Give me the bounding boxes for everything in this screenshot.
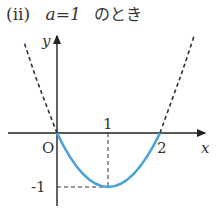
parabola-left-extension — [24, 42, 57, 133]
x-tick-2: 2 — [157, 139, 167, 157]
y-axis-label: y — [41, 32, 51, 50]
parabola-graph: y x O 1 2 -1 — [0, 0, 217, 217]
parabola-right-extension — [160, 36, 194, 133]
x-axis-label: x — [201, 139, 210, 157]
x-tick-1: 1 — [103, 115, 113, 133]
y-tick-minus-1: -1 — [31, 178, 46, 196]
origin-label: O — [42, 139, 54, 157]
